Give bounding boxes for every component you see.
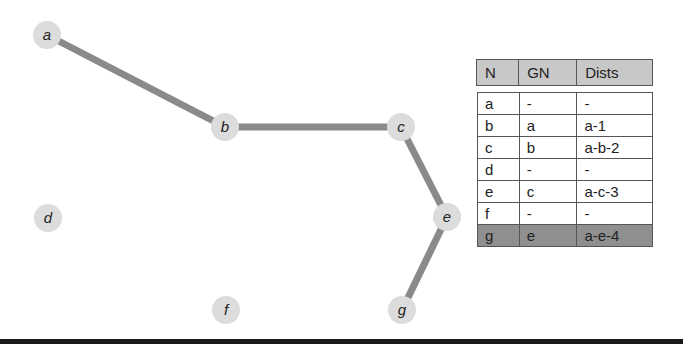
node-b[interactable]: b — [211, 113, 239, 141]
table-header: N GN Dists — [476, 59, 653, 86]
table-row: f-- — [478, 203, 653, 225]
node-label: e — [443, 208, 451, 225]
table-row: eca-c-3 — [478, 181, 653, 203]
column-header-gn: GN — [519, 60, 577, 86]
edge-a-b — [47, 35, 225, 127]
table-row: cba-b-2 — [478, 137, 653, 159]
cell-node: e — [478, 181, 520, 203]
node-label: b — [221, 118, 229, 135]
cell-gn: e — [519, 225, 577, 247]
cell-dists: a-1 — [577, 115, 653, 137]
cell-gn: - — [519, 203, 577, 225]
edge-e-g — [402, 217, 447, 310]
cell-gn: b — [519, 137, 577, 159]
node-label: d — [44, 209, 53, 226]
table-row: a-- — [478, 93, 653, 115]
table-row: gea-e-4 — [478, 225, 653, 247]
cell-node: a — [478, 93, 520, 115]
cell-node: d — [478, 159, 520, 181]
node-label: c — [397, 118, 405, 135]
cell-gn: - — [519, 159, 577, 181]
cell-gn: a — [519, 115, 577, 137]
cell-node: c — [478, 137, 520, 159]
cell-gn: c — [519, 181, 577, 203]
node-d[interactable]: d — [34, 204, 62, 232]
node-g[interactable]: g — [388, 296, 416, 324]
graph-edges — [47, 35, 447, 310]
node-c[interactable]: c — [387, 113, 415, 141]
bottom-bar — [0, 339, 683, 344]
table-row: baa-1 — [478, 115, 653, 137]
cell-gn: - — [519, 93, 577, 115]
graph-nodes: abcdefg — [33, 21, 461, 324]
cell-node: g — [478, 225, 520, 247]
node-a[interactable]: a — [33, 21, 61, 49]
cell-dists: - — [577, 159, 653, 181]
node-e[interactable]: e — [433, 203, 461, 231]
cell-node: f — [478, 203, 520, 225]
cell-dists: - — [577, 203, 653, 225]
table-row: d-- — [478, 159, 653, 181]
distance-table: a--baa-1cba-b-2d--eca-c-3f--gea-e-4 — [477, 92, 653, 247]
node-f[interactable]: f — [212, 296, 240, 324]
column-header-n: N — [477, 60, 519, 86]
node-label: a — [43, 26, 51, 43]
cell-dists: a-e-4 — [577, 225, 653, 247]
column-header-dists: Dists — [577, 60, 653, 86]
cell-dists: - — [577, 93, 653, 115]
edge-c-e — [401, 127, 447, 217]
node-label: g — [398, 301, 407, 318]
cell-dists: a-c-3 — [577, 181, 653, 203]
cell-node: b — [478, 115, 520, 137]
cell-dists: a-b-2 — [577, 137, 653, 159]
